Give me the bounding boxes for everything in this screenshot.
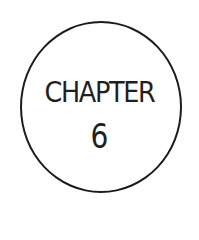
chapter-label: CHAPTER <box>12 76 187 108</box>
chapter-number: 6 <box>15 119 184 155</box>
